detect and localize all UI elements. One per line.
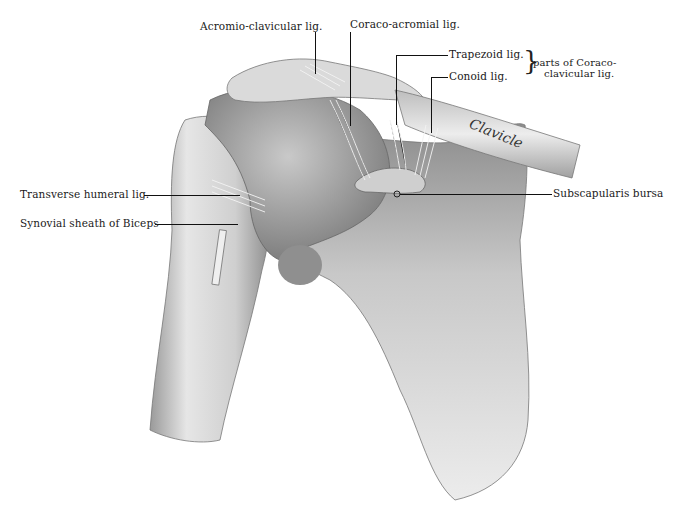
leader-coraco-acromial bbox=[350, 32, 351, 126]
label-subscapularis-bursa: Subscapularis bursa bbox=[553, 187, 663, 199]
label-coracoclavicular-line1: parts of Coraco- bbox=[533, 57, 616, 68]
leader-synovial-sheath bbox=[155, 224, 238, 225]
label-synovial-sheath: Synovial sheath of Biceps bbox=[20, 217, 159, 229]
leader-subscapularis-bursa bbox=[400, 194, 552, 195]
label-conoid: Conoid lig. bbox=[449, 70, 508, 82]
leader-trapezoid-v bbox=[396, 55, 397, 125]
leader-conoid-v bbox=[431, 77, 432, 133]
label-transverse-humeral: Transverse humeral lig. bbox=[20, 188, 149, 200]
label-coraco-acromial: Coraco-acromial lig. bbox=[350, 18, 460, 30]
leader-acromio-clavicular bbox=[315, 32, 316, 74]
label-acromio-clavicular: Acromio-clavicular lig. bbox=[200, 20, 322, 32]
anatomical-figure: Clavicle Acromio-clavicular lig. Coraco-… bbox=[0, 0, 683, 518]
leader-trapezoid-h bbox=[396, 55, 448, 56]
leader-transverse-humeral bbox=[144, 195, 240, 196]
leader-conoid-h bbox=[431, 77, 448, 78]
label-coracoclavicular-line2: clavicular lig. bbox=[544, 68, 614, 79]
label-trapezoid: Trapezoid lig. bbox=[449, 48, 524, 60]
